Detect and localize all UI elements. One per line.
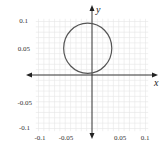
y-tick-label: -0.05 [17,99,32,107]
y-axis-arrow-up [90,5,95,11]
x-tick-label: 0.1 [141,134,150,142]
x-axis-label: x [153,77,159,88]
x-tick-label: -0.1 [34,134,46,142]
x-tick-label: 0.05 [114,134,127,142]
x-tick-label: -0.05 [59,134,74,142]
plot-canvas: y x 0.1 0.05 -0.05 -0.1 -0.1 -0.05 0.05 … [0,0,167,145]
y-tick-label: -0.1 [19,124,31,132]
y-axis-arrow-down [90,133,95,139]
y-axis-label: y [95,4,101,15]
y-tick-label: 0.05 [18,45,31,53]
y-tick-label: 0.1 [19,17,28,25]
x-axis-arrow-left [26,73,32,78]
